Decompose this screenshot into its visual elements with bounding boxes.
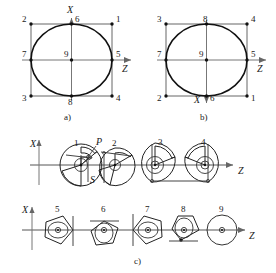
panel-b-node-4 (245, 22, 248, 25)
panel-c-item-5: 5 (45, 204, 73, 246)
panel-b-label-5: 5 (251, 49, 256, 59)
panel-c-item-3: 3 (142, 137, 176, 183)
panel-c-item-8-inner (175, 218, 193, 238)
panel-b-label-4: 4 (251, 14, 256, 24)
panel-c-item-9-center (221, 229, 223, 231)
panel-c-top-x-arrowhead (36, 140, 41, 146)
panel-c-row-bottom: X Z 5 6 7 (21, 204, 255, 266)
panel-a-node-3 (29, 94, 32, 97)
panel-b-label-9: 9 (199, 49, 204, 59)
panel-b-label-3: 3 (157, 14, 162, 24)
panel-b-node-5 (245, 58, 248, 61)
panel-c-item-7-number: 7 (145, 204, 150, 214)
panel-c-item-2-number: 2 (112, 138, 117, 148)
panel-a-z-axis-label: Z (122, 63, 128, 74)
panel-a-label-8: 8 (68, 97, 73, 107)
panel-c-bottom-z-axis-label: Z (249, 230, 255, 241)
panel-c-item-6-number: 6 (101, 204, 106, 214)
panel-c-item-1-s-label: S (90, 174, 95, 185)
panel-c-item-3-number: 3 (158, 137, 163, 147)
panel-b-label-8: 8 (203, 14, 208, 24)
panel-c-caption: c) (134, 256, 141, 266)
panel-c-item-8: 8 (169, 204, 199, 242)
panel-a-label-5: 5 (116, 49, 121, 59)
panel-c-top-z-axis-label: Z (238, 165, 244, 176)
panel-c-bottom-z-arrowhead (238, 227, 245, 233)
panel-a-node-1 (110, 22, 113, 25)
panel-c-item-2-center (114, 164, 117, 167)
panel-c-item-4-number: 4 (201, 137, 206, 147)
panel-b-caption: b) (200, 112, 208, 122)
panel-a-label-6: 6 (75, 14, 80, 24)
panel-a-node-9 (70, 58, 73, 61)
panel-c-item-4-center (204, 164, 206, 166)
panel-b-node-9 (205, 58, 208, 61)
panel-c-top-z-arrowhead (226, 162, 233, 168)
panel-b-label-7: 7 (157, 49, 162, 59)
panel-b-x-axis-label: X (193, 94, 201, 105)
panel-c-item-3-center (154, 164, 156, 166)
panel-a-caption: a) (64, 112, 71, 122)
panel-c-item-7-center (147, 229, 149, 231)
panel-a-label-1: 1 (116, 14, 121, 24)
panel-c-item-1: P S 1 (60, 136, 102, 186)
panel-a-label-7: 7 (22, 49, 27, 59)
panel-c-item-5-center (57, 229, 59, 231)
panel-c-item-1-sector (62, 165, 81, 186)
panel-a: 1 2 3 4 5 6 7 8 9 X Z a) (22, 4, 131, 122)
panel-a-label-3: 3 (22, 93, 27, 103)
panel-a-node-6 (70, 22, 73, 25)
panel-c-item-8-number: 8 (181, 204, 186, 214)
panel-c-item-4: 4 (185, 137, 219, 183)
panel-c-item-5-number: 5 (55, 204, 60, 214)
panel-b-node-3 (164, 22, 167, 25)
panel-b-label-1: 1 (251, 93, 256, 103)
panel-a-label-2: 2 (22, 14, 27, 24)
panel-b-label-2: 2 (157, 93, 162, 103)
panel-c-item-6-center (103, 229, 105, 231)
panel-a-node-4 (110, 94, 113, 97)
panel-b: 1 2 3 4 5 6 7 8 9 X Z b) (157, 14, 266, 122)
panel-c-item-1-center (80, 164, 83, 167)
panel-b-label-6: 6 (210, 93, 215, 103)
panel-a-label-4: 4 (116, 93, 121, 103)
panel-a-node-5 (110, 58, 113, 61)
panel-a-node-7 (29, 58, 32, 61)
panel-c-bottom-x-arrowhead (29, 207, 34, 213)
panel-c-item-1-number: 1 (74, 138, 79, 148)
panel-c-item-2: 2 (99, 138, 135, 186)
panel-a-node-2 (29, 22, 32, 25)
panel-c-item-6: 6 (90, 204, 119, 245)
panel-a-x-axis-label: X (66, 4, 74, 15)
panel-c-item-8-center (183, 229, 185, 231)
panel-c-item-9: 9 (207, 204, 237, 245)
panel-c-row-top: X Z P S 1 2 (29, 136, 244, 186)
panel-b-z-axis-label: Z (257, 63, 263, 74)
panel-b-node-6 (205, 94, 208, 97)
panel-c-item-9-number: 9 (219, 204, 224, 214)
panel-c-item-1-p-label: P (95, 136, 102, 147)
panel-b-node-2 (164, 94, 167, 97)
panel-c-item-7: 7 (133, 204, 162, 246)
technical-figure: 1 2 3 4 5 6 7 8 9 X Z a) 1 2 3 4 5 6 (0, 0, 276, 273)
panel-c-bottom-x-axis-label: X (21, 204, 29, 215)
panel-b-node-7 (164, 58, 167, 61)
panel-b-node-1 (245, 94, 248, 97)
panel-a-label-9: 9 (64, 49, 69, 59)
panel-c-top-x-axis-label: X (29, 138, 37, 149)
